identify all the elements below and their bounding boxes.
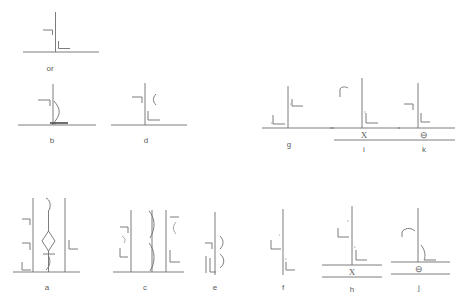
- left-fillet-symbol: [38, 100, 50, 106]
- panel-label: a: [45, 283, 50, 292]
- left-fillet-symbol: [338, 228, 349, 237]
- figure-svg: or b d g: [0, 0, 458, 301]
- left-fillet-upper: [120, 227, 128, 233]
- panel-j: ⊖ j: [391, 208, 450, 292]
- panel-f: f: [271, 209, 295, 292]
- lower-left-fillet-symbol: [273, 115, 285, 124]
- connector-text: or: [46, 64, 53, 73]
- left-fillet-upper: [22, 219, 30, 225]
- arc-symbol: [153, 94, 156, 105]
- panel-c: c: [113, 210, 184, 292]
- right-fillet-symbol: [286, 262, 295, 270]
- panel-label: e: [213, 283, 218, 292]
- panel-label: f: [282, 283, 285, 292]
- lower-fillet-symbol: [366, 113, 378, 123]
- right-fillet: [69, 240, 78, 249]
- tail-symbol: ⊖: [415, 264, 423, 274]
- left-flare-symbol: [402, 228, 415, 237]
- panel-label: g: [287, 140, 291, 149]
- right-fillet-symbol: [59, 41, 71, 49]
- panel-e: e: [205, 212, 224, 292]
- tail-symbol: ⊖: [420, 130, 428, 140]
- panel-label: b: [50, 136, 55, 145]
- panel-k: ⊖ k: [398, 83, 455, 154]
- panel-label: i: [363, 145, 365, 154]
- right-fillet-symbol: [421, 113, 430, 122]
- panel-g: g: [262, 86, 334, 149]
- left-fillet-symbol: [271, 240, 281, 249]
- panel-d: d: [111, 83, 187, 145]
- right-fillet-symbol: [148, 111, 160, 120]
- left-fillet-symbol: [404, 104, 413, 110]
- panel-label: d: [144, 136, 148, 145]
- panel-label: k: [422, 145, 427, 154]
- panel-top-alt: [23, 12, 99, 52]
- panel-i: X i: [330, 78, 400, 154]
- panel-a: a: [13, 198, 80, 292]
- right-fillet-symbol: [421, 245, 436, 260]
- tail-symbol: X: [349, 267, 356, 277]
- left-fillet-symbol: [132, 97, 142, 103]
- panel-label: c: [143, 283, 147, 292]
- panel-label: h: [350, 285, 354, 294]
- left-fillet-symbol: [205, 243, 212, 249]
- upper-flare-symbol: [340, 87, 348, 97]
- bevel-upper: [149, 211, 154, 238]
- left-fillet-symbol: [43, 30, 53, 35]
- panel-h: X h: [322, 206, 382, 294]
- lower-fillet-symbol: [356, 250, 367, 260]
- bottom-flare-curve: [46, 256, 50, 270]
- panel-b: b: [18, 84, 96, 145]
- left-fillet-lower: [22, 243, 30, 250]
- tail-symbol: X: [361, 130, 368, 140]
- right-flare-lower: [220, 254, 224, 268]
- left-fillet-base: [22, 262, 31, 270]
- figure-canvas: or b d g: [0, 0, 458, 301]
- panel-label: j: [417, 283, 420, 292]
- bevel-lower: [149, 243, 154, 271]
- top-flare-curve: [46, 198, 50, 210]
- right-arc: [173, 222, 176, 234]
- flare-curve: [54, 101, 59, 125]
- right-flare-upper: [220, 236, 223, 249]
- right-fillet: [170, 250, 180, 262]
- upper-right-fillet-symbol: [292, 99, 303, 106]
- left-fillet-lower: [120, 248, 128, 257]
- diamond-groove: [42, 231, 55, 251]
- left-arc: [122, 236, 125, 243]
